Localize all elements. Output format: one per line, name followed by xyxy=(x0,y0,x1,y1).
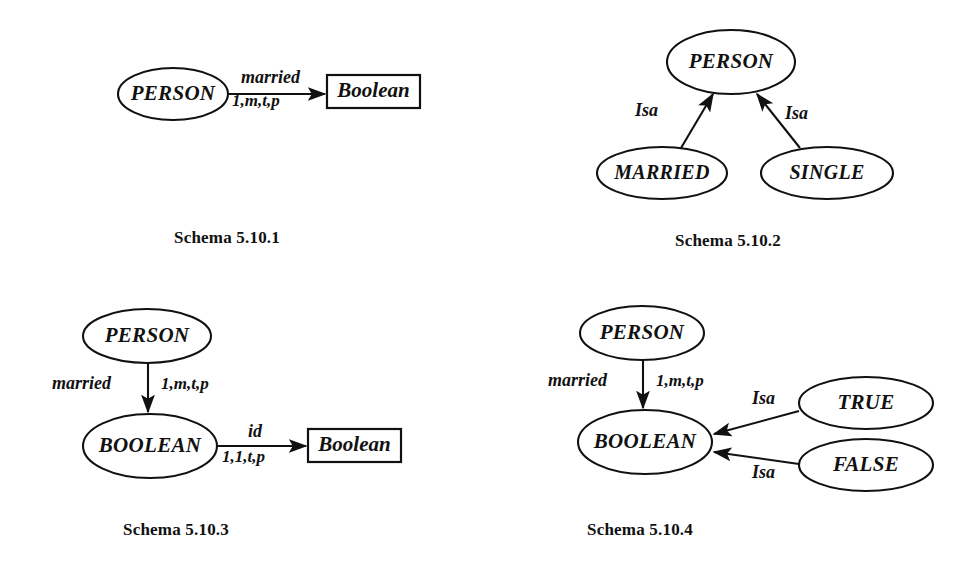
figure-page: PERSON Boolean married 1,m,t,p PERSON MA… xyxy=(0,0,977,575)
schema-5-10-4-graph: PERSON BOOLEAN TRUE FALSE married 1,m,t,… xyxy=(548,306,933,491)
edge-married-label-left: married xyxy=(52,373,112,393)
node-boolean-class-ellipse xyxy=(83,414,217,478)
node-person-ellipse xyxy=(667,30,795,94)
edge-married-label-left: married xyxy=(548,370,608,390)
node-boolean-domain-label: Boolean xyxy=(317,432,390,456)
edge-isa-married-line xyxy=(681,94,713,148)
edge-isa-single-line xyxy=(757,94,800,148)
schema-5-10-3-graph: PERSON BOOLEAN Boolean married 1,m,t,p i… xyxy=(52,309,401,478)
node-boolean-domain-label: Boolean xyxy=(336,78,409,102)
edge-isa-false-label: Isa xyxy=(751,462,775,482)
node-true-ellipse xyxy=(799,377,933,429)
edge-isa-true-line xyxy=(714,411,799,434)
edge-married-label-top: married xyxy=(241,67,301,87)
caption-schema-5-10-4: Schema 5.10.4 xyxy=(587,520,693,540)
node-true-label: TRUE xyxy=(837,390,894,414)
node-false-ellipse xyxy=(799,439,933,491)
edge-isa-true-label: Isa xyxy=(751,388,775,408)
node-person-label: PERSON xyxy=(130,81,216,105)
node-boolean-class-label: BOOLEAN xyxy=(98,433,202,457)
node-person-ellipse xyxy=(83,309,211,363)
schema-5-10-1-graph: PERSON Boolean married 1,m,t,p xyxy=(118,67,420,120)
edge-isa-married-label: Isa xyxy=(634,100,658,120)
edge-isa-false-line xyxy=(714,452,799,464)
edge-id-label-top: id xyxy=(248,421,263,441)
node-married-label: MARRIED xyxy=(613,161,709,183)
node-boolean-class-label: BOOLEAN xyxy=(593,429,697,453)
edge-id-label-bottom: 1,1,t,p xyxy=(222,447,265,466)
node-person-ellipse xyxy=(580,306,704,360)
node-boolean-class-ellipse xyxy=(578,410,712,474)
node-single-ellipse xyxy=(761,147,893,199)
node-single-label: SINGLE xyxy=(789,161,864,183)
schema-5-10-2-graph: PERSON MARRIED SINGLE Isa Isa xyxy=(597,30,893,199)
caption-schema-5-10-3: Schema 5.10.3 xyxy=(123,520,229,540)
edge-married-label-bottom: 1,m,t,p xyxy=(232,91,280,110)
node-person-ellipse xyxy=(118,68,228,120)
node-person-label: PERSON xyxy=(599,320,685,344)
edge-married-label-right: 1,m,t,p xyxy=(656,371,704,390)
edge-isa-single-label: Isa xyxy=(784,103,808,123)
node-false-label: FALSE xyxy=(832,452,899,476)
caption-schema-5-10-1: Schema 5.10.1 xyxy=(174,228,280,248)
node-married-ellipse xyxy=(597,147,727,199)
edge-married-label-right: 1,m,t,p xyxy=(161,374,209,393)
schemas-canvas: PERSON Boolean married 1,m,t,p PERSON MA… xyxy=(0,0,977,575)
caption-schema-5-10-2: Schema 5.10.2 xyxy=(675,231,781,251)
node-person-label: PERSON xyxy=(688,49,774,73)
node-person-label: PERSON xyxy=(104,323,190,347)
node-boolean-domain-box xyxy=(327,75,420,108)
node-boolean-domain-box xyxy=(308,429,401,462)
